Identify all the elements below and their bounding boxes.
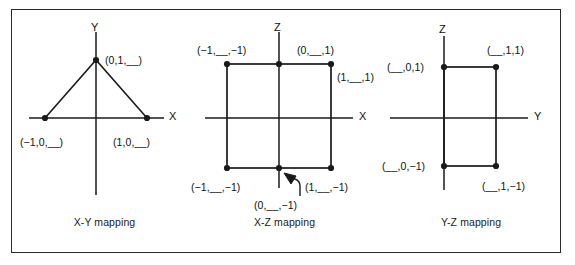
- point-label-left-base: (−1,0,__): [20, 137, 63, 148]
- figure-root: X Y (0,1,__) (−1,0,__) (1,0,__) X-Y mapp…: [0, 0, 575, 265]
- point-top-left: [224, 61, 230, 67]
- point-right-base: [144, 115, 150, 121]
- xz-diagram: [187, 10, 382, 210]
- point-top-right: [493, 64, 499, 70]
- point-label-apex: (0,1,__): [105, 55, 142, 66]
- axis-label-y: Y: [534, 111, 541, 122]
- point-left-base: [42, 115, 48, 121]
- figure-frame: X Y (0,1,__) (−1,0,__) (1,0,__) X-Y mapp…: [11, 9, 561, 253]
- axis-label-x: X: [169, 111, 176, 122]
- point-label-bottom-center: (0,__,−1): [254, 200, 297, 211]
- point-bottom-right: [328, 165, 334, 171]
- point-label-bottom-left: (−1,__,−1): [191, 182, 240, 193]
- panel-xy-mapping: X Y (0,1,__) (−1,0,__) (1,0,__) X-Y mapp…: [12, 10, 197, 254]
- point-label-bottom-left: (__,0,−1): [382, 161, 425, 172]
- point-bottom-center: [276, 165, 282, 171]
- point-label-top-right: (__,1,1): [487, 45, 524, 56]
- point-label-top-left: (__,0,1): [387, 62, 424, 73]
- axis-label-z: Z: [274, 22, 281, 33]
- point-label-top-left: (−1,__,−1): [197, 45, 246, 56]
- callout-arrow-icon: [284, 173, 300, 196]
- axis-label-y: Y: [91, 22, 98, 33]
- point-label-bottom-right: (1,__,−1): [305, 182, 348, 193]
- panel-xz-mapping: X Z (−1,__,−1) (0,__,1) (1,__,1) (−1,__,…: [187, 10, 382, 254]
- point-bottom-left: [441, 163, 447, 169]
- axis-label-x: X: [359, 111, 366, 122]
- caption-yz-mapping: Y-Z mapping: [382, 216, 560, 228]
- point-top-left: [441, 64, 447, 70]
- point-bottom-left: [224, 165, 230, 171]
- point-top-center: [276, 61, 282, 67]
- point-apex: [93, 57, 99, 63]
- caption-xz-mapping: X-Z mapping: [187, 216, 382, 228]
- panel-yz-mapping: Y Z (__,0,1) (__,1,1) (__,0,−1) (__,1,−1…: [382, 10, 560, 254]
- point-label-right-base: (1,0,__): [113, 137, 150, 148]
- axis-label-z: Z: [439, 24, 446, 35]
- point-label-top-right: (1,__,1): [337, 72, 374, 83]
- point-label-bottom-right: (__,1,−1): [482, 181, 525, 192]
- rectangle-outline: [444, 67, 496, 166]
- point-top-right: [328, 61, 334, 67]
- point-label-top-center: (0,__,1): [297, 45, 334, 56]
- caption-xy-mapping: X-Y mapping: [12, 216, 197, 228]
- point-bottom-right: [493, 163, 499, 169]
